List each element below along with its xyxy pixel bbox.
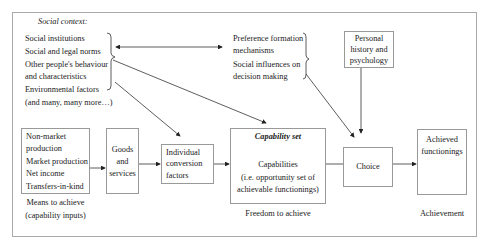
means-line: Transfers-in-kind	[26, 182, 84, 192]
achieved-functionings-box: Achieved functionings	[417, 129, 467, 195]
choice-box: Choice	[343, 147, 393, 187]
capability-line: Capabilities	[231, 160, 325, 170]
social-context-item: Social and legal norms	[25, 47, 101, 57]
means-line: Non-market	[26, 132, 66, 142]
preference-item: decision making	[233, 72, 288, 82]
capability-caption: Freedom to achieve	[230, 209, 326, 219]
means-line: Market production	[26, 157, 88, 167]
personal-history-line: Personal	[345, 34, 393, 44]
personal-history-line: psychology	[345, 56, 393, 66]
social-context-item: Other people's behaviour	[25, 60, 108, 70]
social-context-item: (and many, many more…)	[25, 98, 112, 108]
preference-item: mechanisms	[233, 46, 274, 56]
means-caption: Means to achieve	[21, 198, 90, 208]
goods-box: Goods and services	[106, 128, 139, 194]
social-context-item: Environmental factors	[25, 85, 99, 95]
goods-line: and	[107, 157, 138, 167]
conversion-factors-box: Individual conversion factors	[161, 144, 214, 184]
conversion-line: conversion	[166, 159, 202, 169]
social-context-item: Social institutions	[25, 34, 85, 44]
achieved-line: Achieved	[418, 135, 466, 145]
preference-item: Social influences on	[233, 60, 300, 70]
choice-label: Choice	[344, 162, 392, 172]
goods-line: services	[107, 169, 138, 179]
preference-item: Preference formation	[233, 34, 303, 44]
means-line: production	[26, 144, 62, 154]
social-context-item: and characteristics	[25, 72, 87, 82]
goods-line: Goods	[107, 145, 138, 155]
means-box: Non-market production Market production …	[21, 128, 90, 194]
achieved-caption: Achievement	[412, 209, 472, 219]
personal-history-line: history and	[345, 45, 393, 55]
capability-line: achievable functionings)	[231, 185, 325, 195]
achieved-line: functionings	[418, 147, 466, 157]
means-caption: (capability inputs)	[21, 211, 90, 221]
capability-line: (i.e. opportunity set of	[231, 173, 325, 183]
personal-history-box: Personal history and psychology	[344, 31, 394, 68]
conversion-line: Individual	[166, 148, 200, 158]
capability-set-box: Capability set Capabilities (i.e. opport…	[230, 128, 326, 204]
means-line: Net income	[26, 169, 64, 179]
capability-set-title: Capability set	[231, 132, 325, 142]
conversion-line: factors	[166, 171, 189, 181]
social-context-title: Social context:	[38, 17, 88, 27]
